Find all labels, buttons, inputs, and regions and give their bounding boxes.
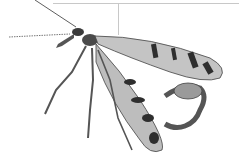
illustration-canvas (0, 0, 239, 167)
scorpionfly-illustration (0, 0, 239, 167)
